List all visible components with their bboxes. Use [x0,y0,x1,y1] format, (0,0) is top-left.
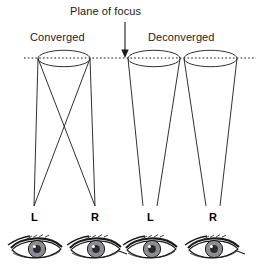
deconverged-cone-group [128,50,237,206]
eye-deconverged-right [185,235,245,258]
eye-converged-left [8,235,62,258]
converged-left-cone [34,59,90,207]
eye-label-converged-right: R [91,211,99,223]
plane-of-focus-arrow [121,22,128,58]
eye-highlight [148,245,151,248]
eye-highlight [210,245,213,248]
deconverged-left-cone [128,59,180,207]
eye-converged-right [67,235,127,258]
eye-label-deconverged-left: L [147,211,154,223]
eye-label-deconverged-right: R [209,211,217,223]
converged-right-cone [38,59,95,207]
eye-illustrations [8,235,245,258]
eye-label-converged-left: L [31,211,38,223]
deconverged-right-cone [184,59,237,207]
eye-deconverged-left [123,235,177,258]
eye-highlight [33,245,36,248]
diagram-canvas: Plane of focus Converged Deconverged L R… [0,0,261,273]
outer-canthus [237,251,245,254]
deconverged-group-label: Deconverged [148,31,215,43]
converged-cone-group [34,50,95,206]
converged-group-label: Converged [30,31,85,43]
plane-of-focus-label: Plane of focus [70,5,141,17]
eye-highlight [92,245,95,248]
outer-canthus [119,251,127,254]
